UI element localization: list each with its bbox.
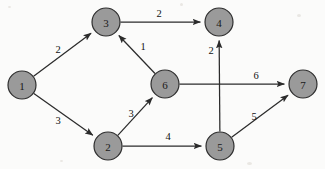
graph-node-circle-6[interactable]	[151, 70, 179, 98]
graph-edge-6-to-3	[119, 35, 155, 73]
graph-canvas: 1234567 232134652	[0, 0, 325, 169]
graph-node-circle-3[interactable]	[92, 8, 120, 36]
graph-figure: 1234567 232134652	[0, 0, 325, 169]
graph-node-3[interactable]: 3	[92, 8, 120, 36]
graph-edge-1-to-2	[34, 93, 93, 135]
graph-edge-2-to-6	[118, 98, 153, 136]
graph-edge-5-to-4	[219, 41, 220, 132]
graph-node-5[interactable]: 5	[206, 132, 234, 160]
graph-node-1[interactable]: 1	[8, 71, 36, 99]
graph-node-2[interactable]: 2	[94, 132, 122, 160]
edge-weight-6-3: 1	[140, 41, 145, 52]
edge-weight-5-7: 5	[251, 111, 256, 122]
graph-node-4[interactable]: 4	[205, 8, 233, 36]
graph-node-circle-5[interactable]	[206, 132, 234, 160]
graph-edge-1-to-3	[34, 33, 92, 76]
edge-weight-2-6: 3	[128, 108, 133, 119]
edge-weight-5-4: 2	[208, 45, 213, 56]
edge-weight-1-2: 3	[55, 115, 60, 126]
graph-node-circle-2[interactable]	[94, 132, 122, 160]
edge-weight-1-3: 2	[55, 44, 60, 55]
graph-node-7[interactable]: 7	[289, 70, 317, 98]
edge-weight-3-4: 2	[156, 8, 161, 19]
graph-node-circle-1[interactable]	[8, 71, 36, 99]
graph-node-circle-7[interactable]	[289, 70, 317, 98]
graph-edge-5-to-7	[232, 95, 288, 137]
edge-weight-6-7: 6	[253, 70, 258, 81]
graph-node-circle-4[interactable]	[205, 8, 233, 36]
graph-node-6[interactable]: 6	[151, 70, 179, 98]
edge-weight-2-5: 4	[165, 131, 171, 142]
